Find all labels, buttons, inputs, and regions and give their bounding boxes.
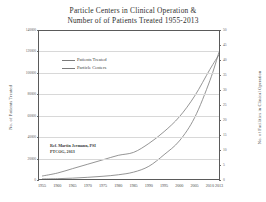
x-axis-tick: 1960 <box>53 183 61 188</box>
gridline <box>39 137 219 138</box>
y-axis-right-tick: 0 <box>223 178 225 182</box>
y-axis-left-tick: 0 <box>34 178 36 182</box>
y-axis-left-tick: 40000 <box>28 135 37 139</box>
source-annotation: Ref. Martin Jermann, PSI PTCOG, 2013 <box>50 143 96 155</box>
legend-label-patients-treated: Patients Treated <box>77 56 106 64</box>
y-axis-right-tick: 35 <box>223 73 227 77</box>
legend-line-icon <box>62 68 75 69</box>
x-axis-tick: 2005 <box>190 183 198 188</box>
y-axis-left-title: No. of Patients Treated <box>8 68 13 148</box>
legend-item-particle-centers: Particle Centers <box>62 64 106 72</box>
y-axis-right-tick: 50 <box>223 28 227 32</box>
x-axis-tick: 1980 <box>114 183 122 188</box>
y-axis-right-tick: 30 <box>223 88 227 92</box>
x-axis-tick: 1955 <box>38 183 46 188</box>
y-axis-right-ticklabels: 05101520253035404550 <box>221 30 237 180</box>
x-axis-tick: 1995 <box>160 183 168 188</box>
y-axis-right-tick: 40 <box>223 58 227 62</box>
y-axis-left-tick: 100000 <box>26 71 36 75</box>
legend-label-particle-centers: Particle Centers <box>77 64 106 72</box>
chart-title-line-1: Particle Centers in Clinical Operation & <box>0 6 266 16</box>
legend-line-icon <box>62 60 75 61</box>
gridline <box>39 159 219 160</box>
gridline <box>39 94 219 95</box>
plot-area <box>38 30 220 180</box>
x-axis-tick: 1965 <box>68 183 76 188</box>
y-axis-right-title: No. of Facilities in Clinical Operation <box>257 63 262 153</box>
y-axis-right-tick: 10 <box>223 148 227 152</box>
chart-legend: Patients Treated Particle Centers <box>62 56 106 72</box>
y-axis-right-tick: 45 <box>223 43 227 47</box>
x-axis-tick: 1990 <box>145 183 153 188</box>
gridline <box>39 116 219 117</box>
y-axis-left-tick: 80000 <box>28 92 37 96</box>
y-axis-right-tick: 20 <box>223 118 227 122</box>
source-line-2: PTCOG, 2013 <box>50 149 96 155</box>
y-axis-left-tick: 120000 <box>26 49 36 53</box>
chart-title: Particle Centers in Clinical Operation &… <box>0 6 266 25</box>
x-axis-tick: 1970 <box>84 183 92 188</box>
x-axis-tick: 1975 <box>99 183 107 188</box>
x-axis-tick: 2013 <box>215 183 223 188</box>
x-axis-tick: 1985 <box>129 183 137 188</box>
gridline <box>39 51 219 52</box>
gridline <box>39 73 219 74</box>
legend-item-patients-treated: Patients Treated <box>62 56 106 64</box>
y-axis-left-tick: 20000 <box>28 157 37 161</box>
x-axis-tick: 2010 <box>206 183 214 188</box>
chart-title-line-2: Number of of Patients Treated 1955-2013 <box>0 16 266 26</box>
y-axis-right-tick: 15 <box>223 133 227 137</box>
y-axis-left-tick: 140000 <box>26 28 36 32</box>
y-axis-right-tick: 5 <box>223 163 225 167</box>
x-axis-tick: 2000 <box>175 183 183 188</box>
y-axis-left-ticklabels: 020000400006000080000100000120000140000 <box>14 30 37 180</box>
series-lines <box>39 31 219 179</box>
x-axis-ticklabels: 1955196019651970197519801985199019952000… <box>38 183 220 195</box>
y-axis-left-tick: 60000 <box>28 114 37 118</box>
y-axis-right-tick: 25 <box>223 103 227 107</box>
chart-figure: Particle Centers in Clinical Operation &… <box>0 0 266 202</box>
